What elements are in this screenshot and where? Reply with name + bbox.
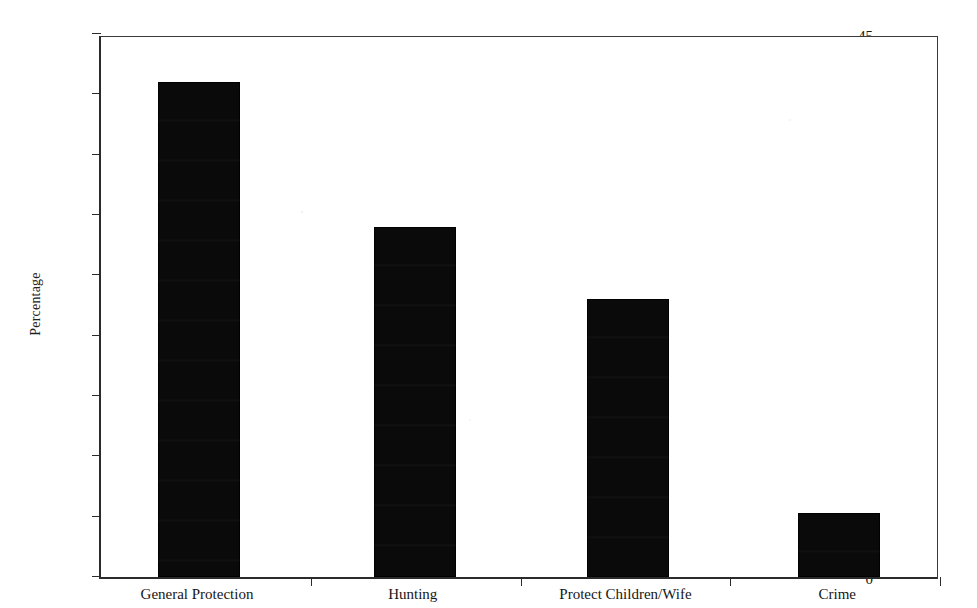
bar bbox=[158, 82, 240, 577]
x-axis-tick bbox=[521, 577, 522, 586]
x-axis-tick bbox=[730, 577, 731, 586]
plot-area bbox=[99, 36, 938, 579]
bar-chart-figure: Percentage 051015202530354045 General Pr… bbox=[0, 0, 977, 608]
y-axis-tick bbox=[92, 274, 101, 275]
x-axis-category-label: Protect Children/Wife bbox=[559, 586, 691, 603]
y-axis-tick bbox=[92, 154, 101, 155]
y-axis-tick bbox=[92, 576, 101, 577]
bar bbox=[798, 513, 880, 577]
y-axis-tick bbox=[92, 455, 101, 456]
x-axis-tick bbox=[940, 577, 941, 586]
y-axis-tick bbox=[92, 395, 101, 396]
x-axis-category-label: General Protection bbox=[141, 586, 254, 603]
bar bbox=[374, 227, 456, 577]
y-axis-title-text: Percentage bbox=[28, 272, 44, 335]
x-axis-tick bbox=[311, 577, 312, 586]
y-axis-tick bbox=[92, 214, 101, 215]
x-axis-category-label: Hunting bbox=[388, 586, 437, 603]
y-axis-tick bbox=[92, 93, 101, 94]
bar bbox=[587, 299, 669, 577]
x-axis-category-label: Crime bbox=[819, 586, 857, 603]
y-axis-title: Percentage bbox=[16, 0, 56, 608]
y-axis-tick bbox=[92, 33, 101, 34]
y-axis-tick bbox=[92, 516, 101, 517]
y-axis-tick bbox=[92, 335, 101, 336]
